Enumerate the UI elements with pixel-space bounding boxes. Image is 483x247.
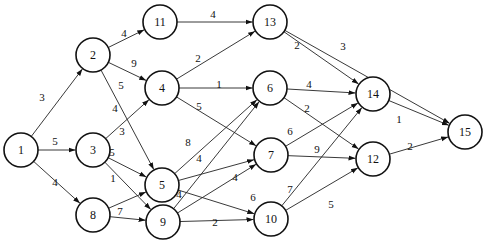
node-label: 9 — [160, 215, 166, 229]
node-10: 10 — [254, 202, 288, 236]
edge-2-to-4: 9 — [108, 57, 146, 80]
edge-arrow-line — [177, 31, 256, 79]
edge-weight-label: 8 — [185, 136, 191, 148]
edge-12-to-15: 2 — [389, 137, 448, 154]
edge-8-to-9: 7 — [110, 205, 146, 220]
edge-arrow-line — [286, 168, 358, 211]
edge-weight-label: 4 — [210, 8, 216, 20]
node-label: 5 — [159, 178, 165, 192]
edge-weight-label: 5 — [118, 79, 124, 91]
node-6: 6 — [253, 71, 287, 105]
edge-weight-label: 4 — [196, 152, 202, 164]
edge-weight-label: 9 — [131, 57, 137, 69]
edge-weight-label: 1 — [396, 113, 402, 125]
node-label: 14 — [367, 87, 379, 101]
edge-9-to-10: 2 — [180, 216, 254, 228]
node-label: 12 — [367, 152, 379, 166]
edge-arrow-line — [178, 160, 254, 181]
edge-arrow-line — [287, 89, 356, 93]
edge-weight-label: 1 — [110, 172, 116, 184]
edge-weight-label: 3 — [119, 125, 125, 137]
edge-weight-label: 2 — [195, 52, 201, 64]
edge-8-to-5: 1 — [109, 172, 146, 208]
edge-arrow-line — [389, 137, 448, 154]
network-diagram: 3544954351742158464422342697512 12381145… — [0, 0, 483, 247]
edge-arrow-line — [178, 190, 254, 214]
node-label: 13 — [264, 15, 276, 29]
edge-7-to-14: 6 — [286, 103, 358, 146]
node-3: 3 — [76, 133, 110, 167]
edge-weight-label: 3 — [39, 91, 45, 103]
edge-weight-label: 5 — [196, 100, 202, 112]
edge-2-to-11: 4 — [108, 27, 144, 47]
edge-11-to-13: 4 — [177, 8, 253, 22]
edge-weight-label: 2 — [212, 216, 218, 228]
node-13: 13 — [253, 5, 287, 39]
edge-weight-label: 4 — [121, 27, 127, 39]
edge-14-to-15: 1 — [389, 100, 449, 125]
node-label: 3 — [90, 143, 96, 157]
node-4: 4 — [145, 71, 179, 105]
node-label: 11 — [154, 15, 166, 29]
edge-weight-label: 4 — [306, 78, 312, 90]
node-1: 1 — [4, 133, 38, 167]
node-15: 15 — [448, 115, 482, 149]
edge-4-to-6: 1 — [179, 78, 253, 90]
edge-arrow-line — [286, 103, 358, 146]
edge-arrow-line — [282, 108, 362, 206]
node-7: 7 — [254, 138, 288, 172]
edge-arrow-line — [284, 98, 359, 149]
node-5: 5 — [145, 168, 179, 202]
edge-weight-label: 6 — [287, 125, 293, 137]
edge-arrow-line — [109, 192, 146, 208]
edge-5-to-7: 4 — [178, 152, 254, 180]
edge-weight-label: 2 — [294, 39, 300, 51]
edge-4-to-13: 2 — [177, 31, 256, 79]
node-label: 8 — [90, 208, 96, 222]
edge-weight-label: 6 — [250, 191, 256, 203]
edge-1-to-3: 5 — [38, 135, 76, 150]
edge-10-to-12: 5 — [286, 168, 358, 211]
edge-weight-label: 4 — [52, 176, 58, 188]
node-12: 12 — [356, 142, 390, 176]
edge-weight-label: 4 — [112, 102, 118, 114]
edge-5-to-10: 6 — [178, 190, 256, 214]
edge-weight-label: 9 — [314, 143, 320, 155]
edge-13-to-14: 2 — [284, 32, 359, 84]
edge-6-to-12: 2 — [284, 98, 359, 149]
node-label: 10 — [265, 212, 277, 226]
edge-arrow-line — [174, 102, 259, 209]
node-2: 2 — [76, 38, 110, 72]
edge-7-to-12: 9 — [288, 143, 356, 158]
edge-weight-label: 5 — [328, 198, 334, 210]
edge-1-to-8: 4 — [34, 161, 80, 203]
edge-6-to-14: 4 — [287, 78, 356, 93]
node-14: 14 — [356, 77, 390, 111]
node-label: 6 — [267, 81, 273, 95]
node-label: 15 — [459, 125, 471, 139]
node-label: 2 — [90, 48, 96, 62]
node-9: 9 — [146, 205, 180, 239]
edge-weight-label: 7 — [287, 183, 293, 195]
node-label: 4 — [159, 81, 165, 95]
node-label: 1 — [18, 143, 24, 157]
edge-10-to-14: 7 — [282, 108, 362, 206]
edge-arrow-line — [110, 217, 146, 221]
edge-3-to-4: 4 — [106, 100, 149, 139]
edge-9-to-6: 4 — [174, 102, 259, 209]
edge-weight-label: 3 — [340, 40, 346, 52]
edge-weight-label: 5 — [52, 135, 58, 147]
node-11: 11 — [143, 5, 177, 39]
edge-weight-label: 4 — [232, 171, 238, 183]
edge-weight-label: 2 — [304, 102, 310, 114]
edge-1-to-2: 3 — [31, 69, 82, 137]
edge-weight-label: 2 — [407, 140, 413, 152]
edge-weight-label: 1 — [216, 78, 222, 90]
node-label: 7 — [268, 148, 274, 162]
edge-arrow-line — [105, 162, 151, 209]
node-8: 8 — [76, 198, 110, 232]
edge-weight-label: 7 — [117, 205, 123, 217]
edge-arrow-line — [108, 62, 146, 80]
